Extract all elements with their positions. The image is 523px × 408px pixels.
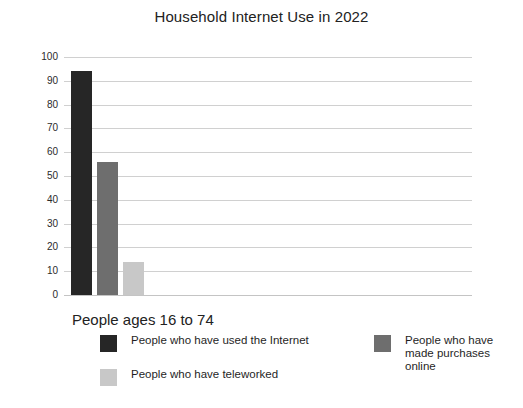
- y-axis-tick-label: 40: [0, 195, 58, 205]
- y-axis-tick-labels: 0102030405060708090100: [0, 57, 58, 295]
- chart-container: Household Internet Use in 2022 010203040…: [0, 0, 523, 408]
- y-axis-tick-label: 50: [0, 171, 58, 181]
- legend-item-label: People who have used the Internet: [131, 334, 309, 347]
- legend-item[interactable]: People who have made purchases online: [374, 334, 493, 373]
- chart-legend: People who have used the InternetPeople …: [0, 332, 523, 402]
- chart-title: Household Internet Use in 2022: [0, 8, 523, 25]
- y-axis-tick-label: 100: [0, 52, 58, 62]
- legend-item-label: People who have made purchases online: [405, 334, 493, 373]
- plot-area: [64, 57, 472, 295]
- x-axis-label: People ages 16 to 74: [72, 311, 214, 328]
- bar[interactable]: [71, 71, 92, 295]
- legend-item-label: People who have teleworked: [131, 368, 278, 381]
- y-axis-tick-label: 70: [0, 123, 58, 133]
- legend-swatch-icon: [100, 369, 117, 386]
- gridline: [64, 295, 472, 296]
- bar[interactable]: [97, 162, 118, 295]
- bar[interactable]: [123, 262, 144, 295]
- legend-item[interactable]: People who have teleworked: [100, 368, 278, 386]
- y-axis-tick-label: 0: [0, 290, 58, 300]
- y-axis-tick-label: 90: [0, 76, 58, 86]
- y-axis-tick-label: 10: [0, 266, 58, 276]
- y-axis-tick-label: 80: [0, 100, 58, 110]
- legend-swatch-icon: [374, 335, 391, 352]
- y-axis-tick-label: 20: [0, 242, 58, 252]
- y-axis-tick-label: 30: [0, 219, 58, 229]
- legend-item[interactable]: People who have used the Internet: [100, 334, 309, 352]
- legend-swatch-icon: [100, 335, 117, 352]
- y-axis-tick-label: 60: [0, 147, 58, 157]
- bar-group: [64, 57, 472, 295]
